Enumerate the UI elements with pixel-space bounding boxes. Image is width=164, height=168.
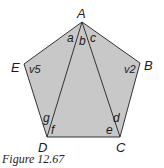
angle-label-d: d bbox=[113, 111, 120, 125]
vertex-label-c: C bbox=[116, 140, 126, 155]
angle-label-g: g bbox=[43, 111, 50, 125]
vertex-label-a: A bbox=[76, 6, 86, 21]
figure-caption: Figure 12.67 bbox=[1, 152, 65, 166]
angle-label-e: e bbox=[106, 123, 113, 137]
angle-label-a: a bbox=[67, 31, 74, 45]
vertex-label-b: B bbox=[144, 58, 153, 73]
angle-label-b: b bbox=[79, 34, 86, 48]
vertex-label-e: E bbox=[11, 60, 20, 75]
angle-label-c: c bbox=[90, 31, 96, 45]
pentagon-diagram: A B C D E a b c d e f g v2 v5 Figure 12.… bbox=[0, 0, 164, 168]
angle-label-v2: v2 bbox=[124, 63, 136, 75]
angle-label-v5: v5 bbox=[29, 63, 42, 75]
